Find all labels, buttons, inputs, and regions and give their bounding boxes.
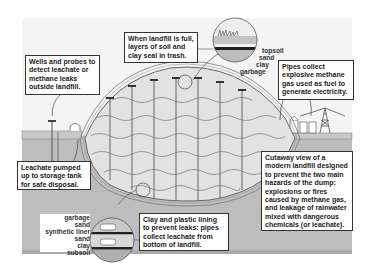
leachate-tank-icon [70,124,80,132]
leachate-pump-callout: Leachate pumped up to storage tank for s… [17,161,91,190]
layer-label-subsoil: subsoil [67,249,90,256]
layer-label-garbage: garbage [240,68,266,75]
cutaway-description-callout: Cutaway view of a modern landfill design… [261,151,353,231]
wells-callout: Wells and probes to detect leachate or m… [25,55,100,95]
cap-callout: When landfill is full, layers of soil an… [124,32,198,63]
well-cap [48,120,56,122]
lining-callout: Clay and plastic lining to prevent leaks… [139,213,229,251]
pipes-callout: Pipes collect explosive methane gas used… [278,60,354,100]
